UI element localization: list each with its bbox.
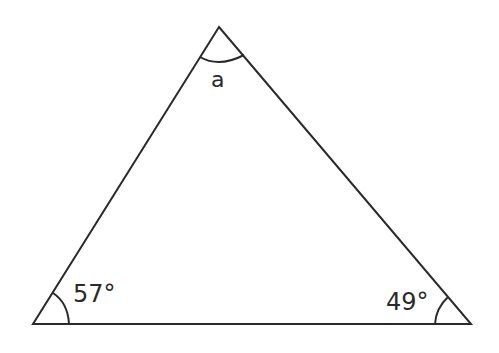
angle-label-top: a: [211, 67, 224, 92]
angle-label-bottom-right: 49°: [386, 288, 429, 316]
bottom-right-angle-arc: [435, 297, 448, 324]
bottom-left-angle-arc: [53, 293, 69, 324]
triangle-diagram: a 57° 49°: [0, 0, 499, 353]
top-angle-arc: [200, 55, 244, 62]
angle-label-bottom-left: 57°: [73, 280, 116, 308]
